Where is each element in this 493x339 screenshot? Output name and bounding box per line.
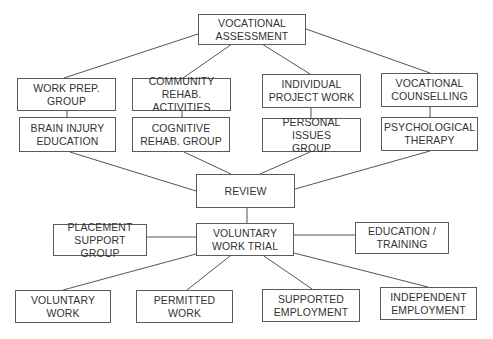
node-label: VOCATIONAL ASSESSMENT — [216, 17, 289, 43]
node-label: SUPPORTED EMPLOYMENT — [274, 293, 349, 319]
node-vocational-counselling: VOCATIONAL COUNSELLING — [381, 73, 478, 107]
node-work-prep-group: WORK PREP. GROUP — [17, 78, 116, 111]
node-education-training: EDUCATION / TRAINING — [355, 222, 449, 254]
node-voluntary-work-trial: VOLUNTARY WORK TRIAL — [196, 223, 294, 256]
node-label: PERMITTED WORK — [154, 294, 216, 320]
node-label: INDIVIDUAL PROJECT WORK — [269, 78, 355, 104]
edge-braininjury-review — [70, 152, 196, 191]
node-psychological-therapy: PSYCHOLOGICAL THERAPY — [381, 117, 478, 151]
node-permitted-work: PERMITTED WORK — [136, 290, 233, 323]
node-voluntary-work: VOLUNTARY WORK — [15, 290, 111, 323]
edge-personal-review — [260, 152, 310, 174]
node-label: PLACEMENT SUPPORT GROUP — [54, 221, 146, 260]
node-label: PSYCHOLOGICAL THERAPY — [384, 121, 475, 147]
node-independent-employment: INDEPENDENT EMPLOYMENT — [380, 287, 477, 320]
edge-assessment-workprep — [64, 34, 198, 78]
node-label: VOLUNTARY WORK — [31, 294, 95, 320]
edge-assessment-community — [183, 44, 232, 78]
edge-assessment-counselling — [306, 29, 430, 73]
node-label: VOLUNTARY WORK TRIAL — [212, 227, 278, 253]
edge-trial-supported — [264, 256, 312, 289]
node-personal-issues-group: PERSONAL ISSUES GROUP — [262, 118, 361, 152]
node-label: REVIEW — [224, 185, 266, 198]
node-brain-injury-education: BRAIN INJURY EDUCATION — [19, 117, 116, 152]
node-cognitive-rehab-group: COGNITIVE REHAB. GROUP — [132, 117, 230, 152]
node-supported-employment: SUPPORTED EMPLOYMENT — [262, 289, 360, 322]
edge-trial-independent — [294, 253, 428, 287]
node-label: VOCATIONAL COUNSELLING — [391, 77, 467, 103]
node-label: COGNITIVE REHAB. GROUP — [140, 122, 222, 148]
edge-assessment-individual — [262, 44, 310, 74]
node-label: BRAIN INJURY EDUCATION — [31, 122, 105, 148]
node-vocational-assessment: VOCATIONAL ASSESSMENT — [198, 14, 306, 45]
node-label: WORK PREP. GROUP — [33, 82, 100, 108]
edge-trial-permitted — [187, 256, 230, 290]
edge-psychological-review — [295, 151, 430, 189]
node-label: PERSONAL ISSUES GROUP — [263, 116, 360, 155]
node-community-rehab-activities: COMMUNITY REHAB. ACTIVITIES — [132, 78, 231, 111]
node-label: COMMUNITY REHAB. ACTIVITIES — [133, 75, 230, 114]
node-label: INDEPENDENT EMPLOYMENT — [390, 291, 466, 317]
edge-cognitive-review — [184, 152, 231, 174]
node-review: REVIEW — [196, 174, 295, 208]
node-placement-support-group: PLACEMENT SUPPORT GROUP — [53, 224, 147, 256]
node-individual-project-work: INDIVIDUAL PROJECT WORK — [262, 74, 361, 108]
node-label: EDUCATION / TRAINING — [368, 225, 436, 251]
